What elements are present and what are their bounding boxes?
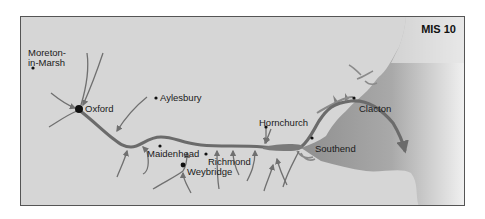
aylesbury-marker	[154, 96, 157, 99]
label-clacton: Clacton	[359, 104, 391, 114]
map-title: MIS 10	[421, 23, 456, 35]
label-southend: Southend	[315, 144, 356, 154]
oxford-marker	[75, 105, 83, 113]
southend-marker	[310, 136, 313, 139]
map-frame: MIS 10 Moreton- in-Marsh Oxford Aylesbur…	[20, 16, 465, 206]
label-oxford: Oxford	[85, 104, 114, 114]
label-moreton-line2: in-Marsh	[28, 58, 66, 68]
label-weybridge: Weybridge	[187, 167, 232, 177]
label-aylesbury: Aylesbury	[160, 93, 202, 103]
weybridge-marker	[181, 163, 186, 168]
clacton-marker	[352, 96, 355, 99]
label-hornchurch: Hornchurch	[259, 118, 308, 128]
label-maidenhead: Maidenhead	[147, 149, 199, 159]
label-moreton: Moreton- in-Marsh	[28, 48, 66, 68]
